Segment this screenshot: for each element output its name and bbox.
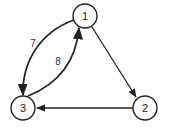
- edge-label-8: 8: [55, 56, 61, 67]
- edge-label-7: 7: [30, 38, 36, 49]
- edge-1-to-2: [92, 27, 136, 97]
- edge-1-to-3: 7: [23, 20, 74, 95]
- node-3: 3: [11, 96, 35, 120]
- graph-canvas: 7 8 1 2 3: [0, 0, 169, 134]
- node-label: 1: [82, 10, 88, 22]
- node-label: 3: [20, 102, 26, 114]
- node-label: 2: [142, 102, 148, 114]
- node-2: 2: [133, 96, 157, 120]
- node-1: 1: [73, 4, 97, 28]
